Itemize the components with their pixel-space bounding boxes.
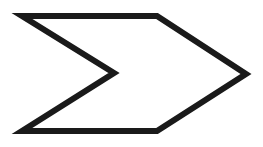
chevron-diagram — [0, 0, 263, 147]
chevron-arrow-shape — [22, 16, 246, 131]
diagram-canvas — [0, 0, 263, 147]
